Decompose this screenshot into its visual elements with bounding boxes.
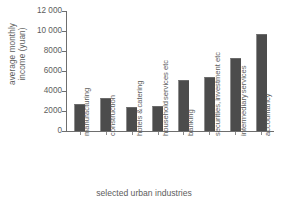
x-axis-category-label-line: banking [187,109,196,136]
y-axis-tick-mark [62,11,66,12]
y-axis-tick-labels: 0200040006000800010 00012 000 [18,0,62,140]
x-axis-category-label: banking [187,109,196,136]
y-axis-tick-label: 6000 [44,67,62,75]
x-axis-tick-mark [235,132,236,135]
x-axis-tick-mark [80,132,81,135]
bar-chart: average monthly income (yuan) 0200040006… [0,0,288,206]
y-axis-tick-mark [62,111,66,112]
x-axis-category-label: householdservices etc [162,60,171,136]
x-axis-tick-mark [261,132,262,135]
x-axis-tick-mark [158,132,159,135]
x-axis-category-label-line: intermediary [240,94,249,136]
x-axis-category-label: intermediaryservices [240,65,249,136]
x-axis-category-label-line: construction [109,95,118,136]
y-axis-tick-mark [62,31,66,32]
x-axis-tick-mark [183,132,184,135]
y-axis-tick-mark [62,91,66,92]
y-axis-tick-label: 2000 [44,107,62,115]
x-axis-tick-mark [106,132,107,135]
y-axis-title-line-1: average monthly [8,23,18,85]
x-axis-category-label-line: household [162,101,171,136]
y-axis-tick-mark [62,131,66,132]
x-axis-category-label: hotels &catering [136,81,145,136]
x-axis-category-label: manufacturing [83,88,92,136]
x-axis-category-label: securities,investment etc [214,52,223,136]
x-axis-tick-mark [209,132,210,135]
x-axis-category-labels: manufacturingconstructionhotels &caterin… [67,136,274,186]
y-axis-tick-label: 10 000 [37,27,62,35]
x-axis-title: selected urban industries [0,188,288,198]
x-axis-category-label-line: services [240,65,249,93]
y-axis-tick-label: 12 000 [37,7,62,15]
x-axis-category-label: construction [109,95,118,136]
x-axis-tick-mark [132,132,133,135]
y-axis-tick-mark [62,51,66,52]
x-axis-category-label-line: manufacturing [83,88,92,136]
x-axis-category-label-line: accountancy [264,93,273,136]
x-axis-category-label-line: hotels & [136,109,145,136]
x-axis-category-label-line: investment etc [214,52,223,101]
y-axis-tick-label: 4000 [44,87,62,95]
x-axis-category-label-line: securities, [214,102,223,136]
y-axis-tick-label: 8000 [44,47,62,55]
x-axis-category-label-line: services etc [162,60,171,100]
x-axis-category-label-line: catering [136,81,145,108]
y-axis-tick-mark [62,71,66,72]
x-axis-category-label: accountancy [264,93,273,136]
